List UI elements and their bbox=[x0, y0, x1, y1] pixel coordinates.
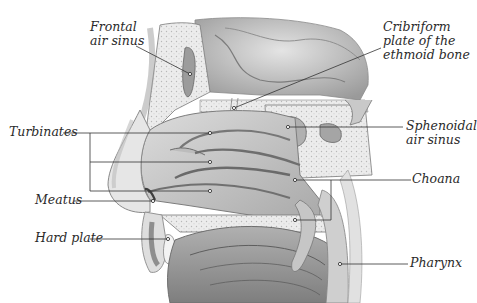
label-pharynx: Pharynx bbox=[410, 256, 462, 270]
label-hard-plate: Hard plate bbox=[35, 231, 103, 245]
label-meatus: Meatus bbox=[35, 193, 82, 207]
label-frontal-air-sinus: Frontal air sinus bbox=[90, 20, 144, 48]
label-cribriform-plate: Cribriform plate of the ethmoid bone bbox=[383, 20, 470, 62]
label-choana: Choana bbox=[412, 172, 460, 186]
label-sphenoidal-air-sinus: Sphenoidal air sinus bbox=[406, 119, 477, 147]
label-turbinates: Turbinates bbox=[9, 125, 78, 139]
brain-region bbox=[195, 18, 368, 100]
